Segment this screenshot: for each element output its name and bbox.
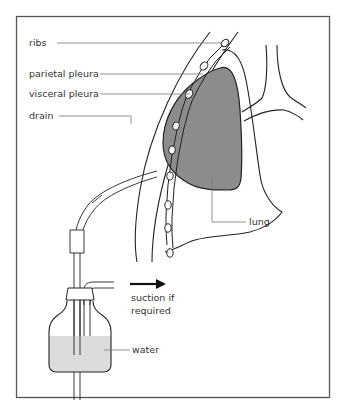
label-suction-line1: suction if: [131, 292, 175, 303]
label-drain: drain: [29, 110, 53, 121]
label-visceral-pleura: visceral pleura: [29, 88, 99, 99]
label-suction-line2: required: [131, 305, 171, 316]
label-lung: lung: [249, 216, 270, 227]
label-parietal-pleura: parietal pleura: [29, 68, 99, 79]
label-ribs: ribs: [29, 37, 47, 48]
label-water: water: [132, 344, 159, 355]
bottle-stopper: [66, 288, 94, 300]
chest-drain-diagram: ribs parietal pleura visceral pleura dra…: [0, 0, 340, 406]
